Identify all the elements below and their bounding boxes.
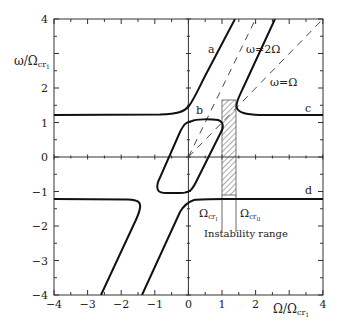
label-omega-cr2: ΩcrII [240, 207, 260, 222]
x-axis-label: Ω/Ωcr1 [273, 302, 309, 318]
svg-text:0: 0 [185, 298, 192, 311]
svg-text:2: 2 [41, 82, 48, 95]
label-a: a [208, 43, 215, 56]
curve-b-loop [157, 119, 223, 193]
svg-text:−4: −4 [46, 298, 62, 311]
curve-a [54, 19, 235, 115]
chart: a b c d ω=2Ω ω=Ω ΩcrI ΩcrII Instability … [0, 0, 340, 329]
curve-d [142, 199, 323, 295]
svg-text:−1: −1 [32, 186, 48, 199]
curve-c [236, 19, 323, 115]
svg-text:4: 4 [41, 13, 48, 26]
label-instability-range: Instability range [204, 228, 288, 239]
instability-region [222, 100, 236, 195]
svg-text:0: 0 [41, 151, 48, 164]
y-axis-label: ω/Ωcr1 [14, 54, 50, 70]
svg-text:−2: −2 [113, 298, 129, 311]
label-c: c [305, 102, 311, 115]
line-omega-Omega [188, 19, 323, 157]
svg-text:4: 4 [320, 298, 327, 311]
svg-text:−4: −4 [32, 289, 48, 302]
svg-text:−3: −3 [79, 298, 95, 311]
svg-text:−2: −2 [32, 220, 48, 233]
curve-lower-left [54, 199, 140, 295]
label-2omega: ω=2Ω [246, 43, 280, 56]
svg-text:−1: −1 [147, 298, 163, 311]
svg-text:2: 2 [252, 298, 259, 311]
label-b: b [196, 104, 203, 117]
label-omega: ω=Ω [270, 76, 297, 89]
svg-text:−3: −3 [32, 255, 48, 268]
svg-text:1: 1 [41, 117, 48, 130]
label-d: d [305, 184, 312, 197]
label-omega-cr1: ΩcrI [199, 207, 217, 222]
svg-text:1: 1 [219, 298, 226, 311]
